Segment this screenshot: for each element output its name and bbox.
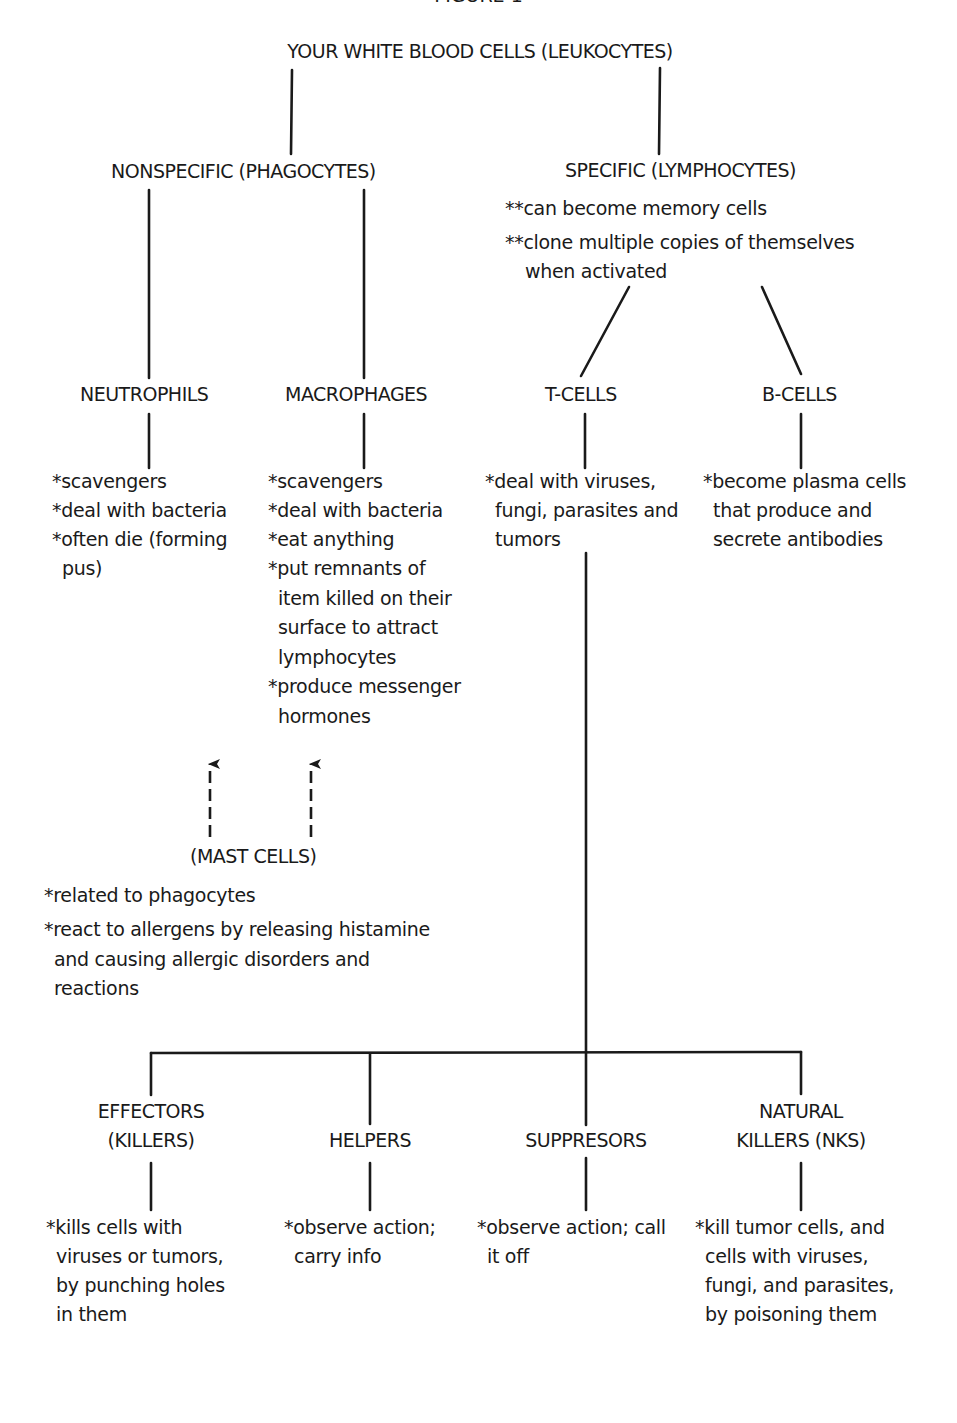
node-natural-killers-sub: KILLERS (NKS) (716, 1126, 886, 1155)
mast-cells-note: and causing allergic disorders and (54, 945, 370, 974)
natural-killers-note: fungi, and parasites, (705, 1271, 894, 1300)
specific-note: when activated (525, 257, 667, 286)
leukocyte-diagram: FIGURE 1 (0, 0, 957, 1423)
helpers-note: *observe action; (284, 1213, 436, 1242)
b-cells-note: that produce and (713, 496, 872, 525)
neutrophils-note: pus) (62, 554, 102, 583)
effectors-note: in them (56, 1300, 127, 1329)
line-root-nonspecific (291, 70, 292, 154)
macrophages-note: surface to attract (278, 613, 438, 642)
macrophages-note: *put remnants of (268, 554, 425, 583)
node-effectors: EFFECTORS (71, 1097, 231, 1126)
node-nonspecific: NONSPECIFIC (PHAGOCYTES) (111, 157, 376, 186)
specific-note: **clone multiple copies of themselves (505, 228, 854, 257)
t-cells-note: fungi, parasites and (495, 496, 678, 525)
neutrophils-note: *scavengers (52, 467, 167, 496)
suppressors-note: it off (487, 1242, 529, 1271)
effectors-note: *kills cells with (46, 1213, 182, 1242)
b-cells-note: secrete antibodies (713, 525, 883, 554)
node-helpers: HELPERS (300, 1126, 440, 1155)
effectors-note: by punching holes (56, 1271, 225, 1300)
node-t-cells: T-CELLS (545, 380, 617, 409)
natural-killers-note: by poisoning them (705, 1300, 877, 1329)
node-natural-killers: NATURAL (716, 1097, 886, 1126)
macrophages-note: lymphocytes (278, 643, 396, 672)
node-leukocytes: YOUR WHITE BLOOD CELLS (LEUKOCYTES) (200, 37, 760, 66)
macrophages-note: *produce messenger (268, 672, 461, 701)
macrophages-note: *eat anything (268, 525, 394, 554)
macrophages-note: *deal with bacteria (268, 496, 443, 525)
macrophages-note: *scavengers (268, 467, 383, 496)
mast-cells-note: *related to phagocytes (44, 881, 255, 910)
t-cells-note: *deal with viruses, (485, 467, 656, 496)
mast-cells-note: reactions (54, 974, 139, 1003)
mast-cells-note: *react to allergens by releasing histami… (44, 915, 430, 944)
suppressors-note: *observe action; call (477, 1213, 666, 1242)
b-cells-note: *become plasma cells (703, 467, 906, 496)
macrophages-note: item killed on their (278, 584, 452, 613)
specific-note: **can become memory cells (505, 194, 767, 223)
natural-killers-note: cells with viruses, (705, 1242, 868, 1271)
line-root-specific (659, 68, 660, 154)
node-b-cells: B-CELLS (762, 380, 837, 409)
neutrophils-note: *often die (forming (52, 525, 227, 554)
connector-lines (0, 0, 957, 1423)
node-macrophages: MACROPHAGES (285, 380, 427, 409)
node-mast-cells: (MAST CELLS) (190, 842, 316, 871)
t-cells-note: tumors (495, 525, 561, 554)
node-neutrophils: NEUTROPHILS (80, 380, 208, 409)
macrophages-note: hormones (278, 702, 371, 731)
node-specific: SPECIFIC (LYMPHOCYTES) (565, 156, 796, 185)
neutrophils-note: *deal with bacteria (52, 496, 227, 525)
effectors-note: viruses or tumors, (56, 1242, 223, 1271)
natural-killers-note: *kill tumor cells, and (695, 1213, 885, 1242)
helpers-note: carry info (294, 1242, 381, 1271)
node-effectors-sub: (KILLERS) (71, 1126, 231, 1155)
node-suppressors: SUPPRESORS (506, 1126, 666, 1155)
